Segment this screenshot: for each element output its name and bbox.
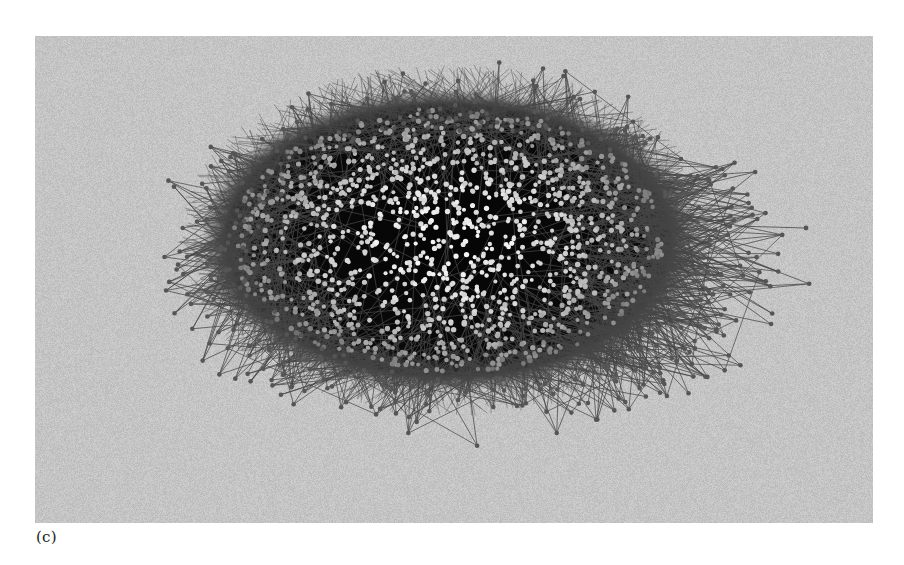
- network-graph-panel: [35, 36, 873, 523]
- network-graph-canvas: [35, 36, 873, 523]
- figure-caption: (c): [36, 528, 57, 546]
- figure-page: (c): [0, 0, 904, 565]
